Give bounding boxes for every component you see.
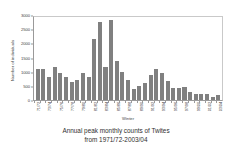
bar xyxy=(149,75,153,101)
bar xyxy=(199,94,203,100)
x-axis-tick-mark xyxy=(216,101,217,103)
x-axis-tick-mark xyxy=(51,101,52,103)
y-axis-tick-label: 500 xyxy=(23,85,30,89)
chart-caption: Annual peak monthly counts of Twites fro… xyxy=(0,126,232,144)
bar xyxy=(98,22,102,100)
bar xyxy=(177,88,181,100)
bar xyxy=(81,73,85,100)
x-axis-tick-mark xyxy=(45,101,46,103)
x-axis-tick-mark xyxy=(188,101,189,103)
x-axis-tick-mark xyxy=(159,101,160,103)
bar xyxy=(126,80,130,100)
x-axis-title: Winter xyxy=(33,116,223,121)
y-axis-tick-label: 1000 xyxy=(21,71,30,75)
x-axis-tick-mark xyxy=(131,101,132,103)
bar xyxy=(194,94,198,100)
x-axis-tick-mark xyxy=(91,101,92,103)
x-axis-tick-label: 03/04 xyxy=(219,102,223,111)
x-axis-tick-mark xyxy=(108,101,109,103)
bar xyxy=(211,97,215,100)
y-axis-tick-label: 2000 xyxy=(21,42,30,46)
x-axis-labels: 71/7273/7475/7677/7879/8081/8283/8485/86… xyxy=(33,102,223,116)
x-axis-tick-mark xyxy=(57,101,58,103)
bar xyxy=(188,92,192,100)
bar xyxy=(103,67,107,100)
x-axis-tick-mark xyxy=(85,101,86,103)
x-axis-tick-mark xyxy=(74,101,75,103)
bar xyxy=(64,77,68,100)
x-axis-tick-mark xyxy=(205,101,206,103)
x-axis-tick-mark xyxy=(148,101,149,103)
bar xyxy=(216,95,220,100)
x-axis-tick-mark xyxy=(211,101,212,103)
bar xyxy=(53,67,57,100)
x-axis-tick-mark xyxy=(114,101,115,103)
bar xyxy=(120,72,124,100)
x-axis-tick-mark xyxy=(182,101,183,103)
bar xyxy=(205,94,209,100)
x-axis-tick-mark xyxy=(102,101,103,103)
bar-slot xyxy=(216,17,222,100)
x-axis-tick-mark xyxy=(199,101,200,103)
bars-container xyxy=(34,17,222,100)
bar xyxy=(70,82,74,100)
y-axis-tick-label: 2500 xyxy=(21,28,30,32)
bar xyxy=(143,83,147,100)
x-axis-tick-mark xyxy=(97,101,98,103)
x-axis-label-slot: 03/04 xyxy=(217,102,223,116)
bar xyxy=(36,69,40,100)
x-axis-tick-mark xyxy=(125,101,126,103)
bar xyxy=(132,89,136,100)
chart-figure: 050010001500200025003000 Number of indiv… xyxy=(0,0,232,150)
caption-line-1: Annual peak monthly counts of Twites xyxy=(0,126,232,135)
bar xyxy=(160,73,164,100)
bar xyxy=(166,81,170,100)
bar xyxy=(171,88,175,100)
bar xyxy=(154,69,158,100)
x-axis-tick-mark xyxy=(142,101,143,103)
x-axis-tick-mark xyxy=(68,101,69,103)
x-axis-tick-mark xyxy=(165,101,166,103)
x-axis-tick-mark xyxy=(119,101,120,103)
bar xyxy=(92,39,96,100)
y-axis-tick-label: 3000 xyxy=(21,14,30,18)
bar xyxy=(41,69,45,100)
x-axis-tick-mark xyxy=(80,101,81,103)
x-axis-tick-mark xyxy=(34,101,35,103)
y-axis-title: Number of individuals xyxy=(10,31,15,91)
y-axis: 050010001500200025003000 xyxy=(0,16,33,101)
x-axis-tick-mark xyxy=(40,101,41,103)
bar xyxy=(137,86,141,100)
plot-area xyxy=(33,16,223,101)
x-axis-tick-mark xyxy=(194,101,195,103)
x-axis-tick-mark xyxy=(62,101,63,103)
bar xyxy=(109,20,113,100)
y-axis-tick-label: 0 xyxy=(28,99,30,103)
x-axis-tick-mark xyxy=(154,101,155,103)
bar xyxy=(58,73,62,100)
x-axis-tick-mark xyxy=(176,101,177,103)
y-axis-tick-label: 1500 xyxy=(21,56,30,60)
caption-line-2: from 1971/72-2003/04 xyxy=(0,135,232,144)
bar xyxy=(87,77,91,100)
x-axis-tick-mark xyxy=(137,101,138,103)
x-axis-tick-mark xyxy=(171,101,172,103)
bar xyxy=(47,77,51,100)
bar xyxy=(75,80,79,100)
bar xyxy=(115,61,119,100)
bar xyxy=(182,87,186,100)
